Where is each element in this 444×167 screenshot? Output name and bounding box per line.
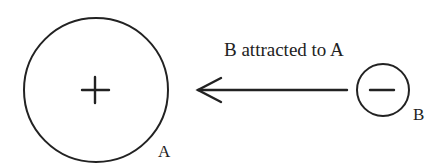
object-a: A (24, 18, 171, 162)
attraction-diagram: A B attracted to A B (0, 0, 444, 167)
plus-icon (82, 77, 109, 103)
label-b: B (413, 105, 424, 124)
object-b: B (357, 64, 424, 124)
caption-text: B attracted to A (224, 39, 344, 60)
arrow-left-icon (198, 78, 347, 102)
label-a: A (158, 142, 171, 161)
